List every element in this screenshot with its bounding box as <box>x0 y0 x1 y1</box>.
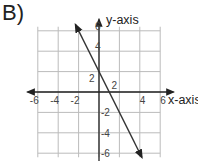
y-tick-label: 6 <box>95 21 101 32</box>
x-tick-label: 2 <box>111 80 117 91</box>
x-tick-label: -6 <box>30 95 39 106</box>
y-axis-label: y-axis <box>106 13 139 27</box>
x-axis-label: x-axis <box>168 93 198 107</box>
x-tick-label: 4 <box>140 95 146 106</box>
x-tick-label: 6 <box>160 95 166 106</box>
y-tick-label: -6 <box>101 148 110 159</box>
y-tick-label: 2 <box>89 73 95 84</box>
y-tick-label: 4 <box>95 41 101 52</box>
tick-labels: -6-4-246642-2-4-62 <box>30 21 166 159</box>
y-tick-label: -2 <box>101 107 110 118</box>
coordinate-plane: -6-4-246642-2-4-62 x-axis y-axis <box>0 0 198 161</box>
x-tick-label: -2 <box>71 95 80 106</box>
x-tick-label: -4 <box>50 95 59 106</box>
y-tick-label: -4 <box>101 128 110 139</box>
